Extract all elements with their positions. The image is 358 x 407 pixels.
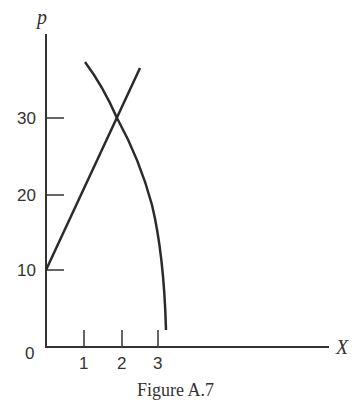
demand-curve: [85, 62, 166, 330]
x-tick-label-1: 1: [79, 354, 88, 373]
y-tick-label-10: 10: [17, 261, 36, 280]
x-tick-label-3: 3: [153, 354, 162, 373]
supply-line: [46, 68, 140, 270]
x-axis-label: X: [335, 336, 349, 358]
y-tick-label-20: 20: [17, 186, 36, 205]
x-tick-label-2: 2: [117, 354, 126, 373]
figure-caption: Figure A.7: [137, 380, 214, 400]
y-axis-label: p: [35, 6, 47, 29]
y-tick-label-30: 30: [17, 109, 36, 128]
origin-label: 0: [25, 344, 34, 363]
chart: p X 30 20 10 0 1 2 3 Figure A.7: [0, 0, 358, 407]
